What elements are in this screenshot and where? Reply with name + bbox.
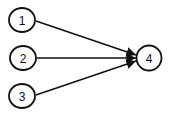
diagram-canvas: 1 2 3 4	[0, 0, 171, 117]
node-3-label: 3	[19, 90, 26, 104]
node-4: 4	[137, 46, 162, 71]
node-1-label: 1	[19, 14, 26, 28]
edge-1-to-4	[36, 21, 136, 55]
edges	[36, 21, 136, 95]
node-2: 2	[10, 46, 36, 70]
graph-svg: 1 2 3 4	[0, 0, 171, 117]
edge-3-to-4	[36, 61, 136, 95]
node-4-label: 4	[146, 52, 153, 66]
node-3: 3	[9, 84, 35, 108]
node-2-label: 2	[20, 52, 27, 66]
node-1: 1	[9, 8, 35, 32]
